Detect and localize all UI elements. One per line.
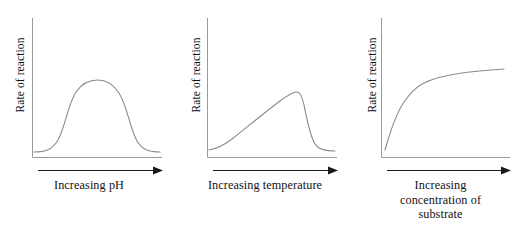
y-axis-label-text-ph: Rate of reaction	[11, 0, 29, 150]
curve-skewed-peak-temperature	[209, 92, 335, 151]
enzyme-rate-graphs-figure: Rate of reaction Increasing pH Rate of r…	[0, 0, 529, 228]
x-axis-label-temperature: Increasing temperature	[176, 178, 354, 193]
y-axis-label-temperature: Rate of reaction	[187, 0, 205, 150]
x-axis-label-substrate: Increasing concentration of substrate	[352, 178, 529, 222]
x-axis-label-ph: Increasing pH	[0, 178, 178, 193]
y-axis-label-text-substrate: Rate of reaction	[363, 0, 381, 150]
y-axis-label-ph: Rate of reaction	[11, 0, 29, 150]
x-axis-arrowhead-substrate	[501, 167, 511, 175]
y-axis-label-text-temperature: Rate of reaction	[187, 0, 205, 150]
x-axis-arrowhead-ph	[153, 167, 163, 175]
panel-substrate: Rate of reaction Increasing concentratio…	[352, 0, 529, 228]
panel-ph: Rate of reaction Increasing pH	[0, 0, 178, 228]
y-axis-label-substrate: Rate of reaction	[363, 0, 381, 150]
curve-bell-curve-ph	[34, 80, 160, 152]
panel-temperature: Rate of reaction Increasing temperature	[176, 0, 354, 228]
x-axis-arrowhead-temperature	[328, 167, 338, 175]
curve-saturation-curve-substrate	[385, 69, 504, 150]
